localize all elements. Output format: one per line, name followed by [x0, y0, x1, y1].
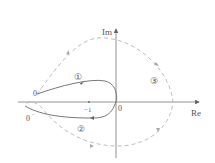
zero-minus-label: 0	[26, 114, 30, 123]
solid-curve	[25, 80, 117, 118]
dashed-arrow-lower-left	[90, 144, 94, 148]
origin-label: 0	[118, 104, 122, 113]
zero-minus-sup: −	[32, 112, 35, 117]
dashed-arrow-upper-right	[154, 62, 159, 66]
nyquist-diagram: Im Re 0 −1 0 + 0 − ① ② ③	[0, 0, 215, 163]
region-label-3: ③	[150, 76, 158, 86]
minus-one-label: −1	[84, 106, 92, 114]
dashed-arrow-upper-left	[66, 50, 69, 55]
solid-arrow-upper	[80, 82, 84, 85]
region-label-1: ①	[74, 72, 82, 82]
zero-plus-label: 0	[33, 89, 37, 98]
re-axis-label: Re	[191, 108, 201, 118]
dashed-contour	[25, 38, 173, 146]
solid-arrow-lower	[90, 116, 94, 120]
diagram-canvas: Im Re 0 −1 0 + 0 − ① ② ③	[0, 0, 215, 163]
minus-one-point	[88, 101, 90, 103]
region-label-2: ②	[77, 124, 85, 134]
zero-plus-sup: +	[39, 87, 42, 92]
im-axis-label: Im	[102, 27, 112, 37]
